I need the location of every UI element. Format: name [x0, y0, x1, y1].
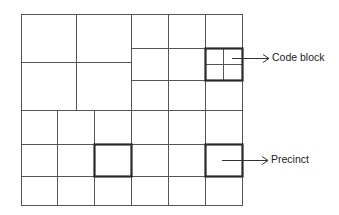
tile-partition-diagram: Code block Precinct	[0, 0, 339, 215]
precinct-arrow	[222, 157, 268, 165]
diagram-canvas	[0, 0, 339, 215]
callout-arrows	[222, 55, 269, 165]
code-block-arrow	[232, 55, 269, 63]
code-block-label: Code block	[272, 52, 325, 63]
precinct-box-left	[95, 145, 132, 177]
precinct-label: Precinct	[271, 154, 309, 165]
